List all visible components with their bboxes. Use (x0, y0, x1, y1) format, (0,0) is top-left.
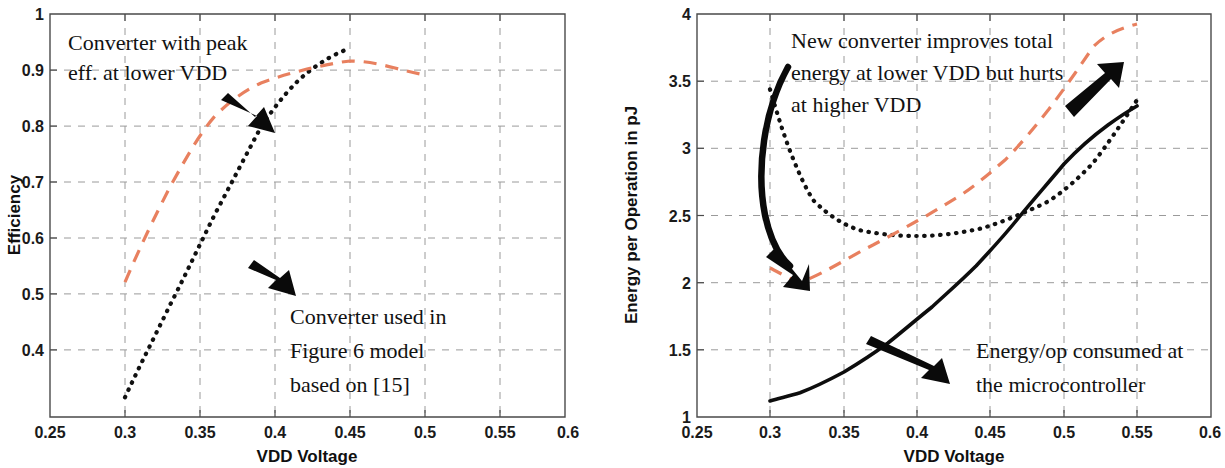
annotation-microcontroller-line2: the microcontroller (976, 372, 1146, 397)
energy-x-axis-title: VDD Voltage (904, 447, 1005, 466)
energy-chart-svg: New converter improves total energy at l… (613, 0, 1225, 468)
x-tick-label: 0.35 (184, 424, 215, 441)
y-tick-label: 4 (682, 6, 691, 23)
y-tick-label: 1 (35, 6, 44, 23)
y-tick-label: 3.5 (669, 73, 691, 90)
annotation-figure6-model-line1: Converter used in (290, 304, 446, 329)
x-tick-label: 0.6 (557, 424, 579, 441)
energy-y-tick-labels: 4 3.5 3 2.5 2 1.5 1 (669, 6, 691, 426)
annotation-microcontroller-arrow-icon (866, 336, 950, 384)
efficiency-chart-panel: Converter with peak eff. at lower VDD Co… (0, 0, 612, 468)
y-tick-label: 1 (682, 409, 691, 426)
x-tick-label: 0.45 (974, 424, 1005, 441)
energy-y-axis-title: Energy per Operation in pJ (622, 106, 641, 324)
y-tick-label: 1.5 (669, 342, 691, 359)
x-tick-label: 0.5 (1053, 424, 1075, 441)
efficiency-x-axis-title: VDD Voltage (257, 447, 358, 466)
x-tick-label: 0.4 (264, 424, 286, 441)
energy-chart-panel: New converter improves total energy at l… (613, 0, 1225, 468)
figure-root: Converter with peak eff. at lower VDD Co… (0, 0, 1225, 468)
y-tick-label: 0.9 (22, 62, 44, 79)
energy-x-tick-labels: 0.25 0.3 0.35 0.4 0.45 0.5 0.55 0.6 (681, 424, 1221, 441)
y-tick-label: 2.5 (669, 208, 691, 225)
x-tick-label: 0.35 (828, 424, 859, 441)
annotation-new-converter-line1: New converter improves total (791, 28, 1053, 53)
x-tick-label: 0.45 (334, 424, 365, 441)
x-tick-label: 0.25 (34, 424, 65, 441)
x-tick-label: 0.3 (114, 424, 136, 441)
annotation-figure6-model: Converter used in Figure 6 model based o… (248, 260, 446, 397)
x-tick-label: 0.55 (1121, 424, 1152, 441)
annotation-figure6-model-line3: based on [15] (290, 372, 410, 397)
annotation-figure6-model-line2: Figure 6 model (290, 338, 424, 363)
efficiency-y-tick-labels: 1 0.9 0.8 0.7 0.6 0.5 0.4 (22, 6, 44, 359)
efficiency-chart-svg: Converter with peak eff. at lower VDD Co… (0, 0, 612, 468)
annotation-microcontroller-line1: Energy/op consumed at (976, 338, 1183, 363)
annotation-new-converter-line2: energy at lower VDD but hurts (791, 60, 1063, 85)
x-tick-label: 0.6 (1199, 424, 1221, 441)
annotation-peak-efficiency-line1: Converter with peak (68, 30, 248, 55)
annotation-peak-efficiency: Converter with peak eff. at lower VDD (68, 30, 275, 133)
annotation-microcontroller: Energy/op consumed at the microcontrolle… (866, 336, 1183, 397)
efficiency-x-tick-labels: 0.25 0.3 0.35 0.4 0.45 0.5 0.55 0.6 (34, 424, 579, 441)
efficiency-y-axis-title: Efficiency (5, 174, 24, 255)
y-tick-label: 2 (682, 275, 691, 292)
annotation-figure6-model-arrow-icon (248, 260, 296, 296)
x-tick-label: 0.55 (484, 424, 515, 441)
y-tick-label: 0.5 (22, 286, 44, 303)
annotation-peak-efficiency-line2: eff. at lower VDD (68, 60, 227, 85)
x-tick-label: 0.3 (759, 424, 781, 441)
y-tick-label: 0.6 (22, 230, 44, 247)
annotation-new-converter-arrow-icon (1065, 62, 1124, 117)
y-tick-label: 0.8 (22, 118, 44, 135)
x-tick-label: 0.25 (681, 424, 712, 441)
y-tick-label: 3 (682, 140, 691, 157)
annotation-peak-efficiency-arrow-icon (221, 93, 275, 133)
annotation-new-converter-line3: at higher VDD (791, 92, 921, 117)
x-tick-label: 0.4 (906, 424, 928, 441)
y-tick-label: 0.4 (22, 342, 44, 359)
y-tick-label: 0.7 (22, 174, 44, 191)
x-tick-label: 0.5 (414, 424, 436, 441)
